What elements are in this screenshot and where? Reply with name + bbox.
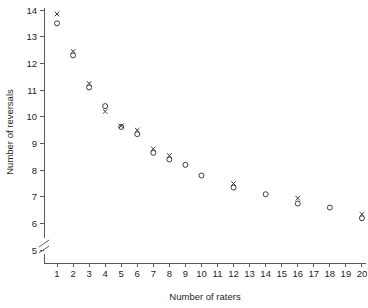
x-tick-label: 14 [260, 268, 271, 279]
scatter-chart: 567891011121314 123456789101112131415161… [0, 0, 368, 308]
plot-area: 567891011121314 123456789101112131415161… [0, 0, 368, 308]
data-point-circle [263, 192, 268, 197]
data-point-circle [183, 162, 188, 167]
y-tick-label: 7 [32, 191, 37, 202]
y-tick-label: 10 [26, 111, 37, 122]
data-points [55, 12, 365, 221]
x-tick-label: 15 [276, 268, 287, 279]
data-point-cross [295, 196, 300, 201]
data-point-circle [295, 201, 300, 206]
y-tick-label: 6 [32, 218, 37, 229]
x-tick-label: 20 [357, 268, 368, 279]
x-tick-label: 6 [135, 268, 140, 279]
y-tick-label: 9 [32, 138, 37, 149]
x-tick-label: 16 [292, 268, 303, 279]
x-tick-label: 4 [103, 268, 108, 279]
data-point-circle [103, 104, 108, 109]
x-tick-label: 11 [213, 268, 223, 279]
data-point-circle [199, 173, 204, 178]
x-tick-label: 12 [228, 268, 239, 279]
y-axis-title: Number of reversals [4, 89, 15, 175]
y-tick-label: 5 [32, 245, 37, 256]
x-tick-label: 10 [196, 268, 207, 279]
x-axis: 1234567891011121314151617181920 [44, 263, 367, 279]
x-tick-label: 5 [119, 268, 124, 279]
x-tick-label: 18 [325, 268, 336, 279]
x-tick-label: 1 [54, 268, 59, 279]
x-tick-label: 13 [244, 268, 255, 279]
x-tick-label: 7 [151, 268, 156, 279]
x-tick-label: 17 [309, 268, 320, 279]
y-tick-label: 11 [27, 85, 37, 96]
data-point-cross [55, 12, 60, 17]
data-point-circle [327, 205, 332, 210]
data-point-cross [103, 109, 108, 114]
y-axis: 567891011121314 [26, 5, 49, 264]
x-axis-title: Number of raters [169, 291, 241, 302]
x-tick-label: 3 [86, 268, 91, 279]
y-tick-label: 8 [32, 165, 37, 176]
y-tick-label: 12 [26, 58, 37, 69]
data-point-circle [55, 21, 60, 26]
x-tick-label: 2 [70, 268, 75, 279]
y-tick-label: 14 [26, 5, 37, 16]
x-tick-label: 19 [341, 268, 352, 279]
x-tick-label: 8 [167, 268, 172, 279]
x-tick-label: 9 [183, 268, 188, 279]
y-tick-label: 13 [26, 31, 37, 42]
